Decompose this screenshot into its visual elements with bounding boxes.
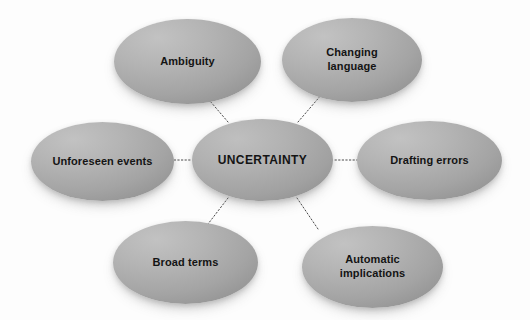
node-ambiguity-label: Ambiguity (154, 55, 221, 69)
node-changing-language-label: Changing language (320, 46, 384, 74)
node-changing-language[interactable]: Changing language (282, 18, 422, 102)
concept-map-diagram: AmbiguityChanging languageUnforeseen eve… (0, 0, 530, 320)
node-unforeseen-events-label: Unforeseen events (46, 155, 158, 169)
center-to-broad-terms-connector (208, 198, 228, 224)
center-node-label: UNCERTAINTY (212, 153, 314, 168)
node-broad-terms-label: Broad terms (147, 256, 225, 270)
node-unforeseen-events[interactable]: Unforeseen events (31, 122, 174, 201)
node-automatic-implications[interactable]: Automatic implications (302, 226, 443, 308)
node-broad-terms[interactable]: Broad terms (113, 221, 258, 304)
center-to-automatic-implications-connector (297, 198, 318, 229)
center-to-changing-language-connector (298, 94, 322, 122)
node-ambiguity[interactable]: Ambiguity (114, 19, 261, 104)
node-drafting-errors[interactable]: Drafting errors (357, 121, 502, 200)
node-automatic-implications-label: Automatic implications (334, 253, 411, 281)
node-drafting-errors-label: Drafting errors (384, 154, 475, 168)
center-node-uncertainty[interactable]: UNCERTAINTY (192, 119, 333, 201)
